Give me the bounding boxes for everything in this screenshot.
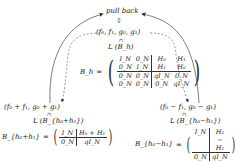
- right-matrix-lhs: B_{h₀−h₁}: [135, 141, 173, 148]
- right-tuple: (f₀ − f₁, g₀ − g₁): [160, 103, 216, 111]
- center-space: L (B_h): [108, 43, 134, 51]
- center-matrix-lhs: B_h: [80, 68, 93, 76]
- left-tuple: (f₀ + f₁, g₀ + g₁): [4, 103, 60, 111]
- left-space: L (B_{h₀+h₁}): [33, 117, 83, 125]
- pull-back-label: pull back: [106, 7, 139, 15]
- right-matrix: B_{h₀−h₁} = ( I_N H₀ − H₁ 0_N qI_N ): [135, 128, 235, 161]
- right-space: L (B_{h₀−h₁}): [170, 117, 220, 125]
- down-arrow-icon: ⇩: [116, 17, 122, 25]
- center-matrix-grid: I_N 0_N H₀ H₁ 0_N I_N H₁ H₀ 0_N 0_N qI_N…: [117, 55, 192, 88]
- right-matrix-grid: I_N H₀ − H₁ 0_N qI_N: [192, 128, 230, 161]
- center-tuple: (f₀, f₁, g₀, g₁): [96, 28, 140, 36]
- center-matrix: B_h = ( I_N 0_N H₀ H₁ 0_N I_N H₁ H₀ 0_N …: [80, 55, 203, 88]
- left-matrix-lhs: B_{h₀+h₁}: [2, 134, 40, 141]
- left-matrix: B_{h₀+h₁} = ( I_N H₀ + H₁ 0_N qI_N ): [2, 128, 114, 146]
- left-matrix-grid: I_N H₀ + H₁ 0_N qI_N: [59, 129, 107, 146]
